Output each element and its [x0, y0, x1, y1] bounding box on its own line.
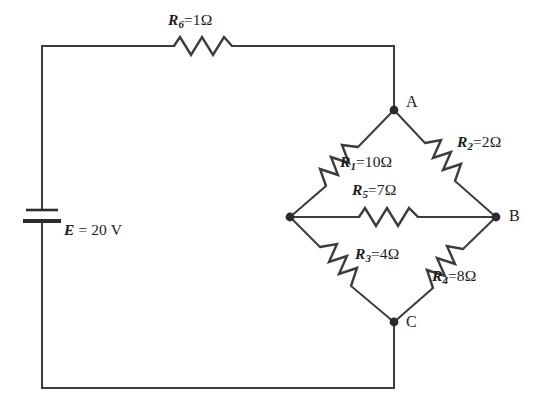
wire-B-to-R4 — [463, 217, 496, 249]
resistor-R6-zigzag — [174, 37, 232, 55]
label-R4-unit: Ω — [465, 267, 477, 284]
node-label-C: C — [406, 314, 417, 330]
node-dot-A — [390, 106, 399, 115]
label-R3-value: 4 — [380, 245, 388, 262]
label-R5-unit: Ω — [385, 181, 397, 198]
resistor-R2-zigzag — [425, 140, 461, 181]
label-R2-eq: = — [473, 133, 482, 150]
node-dot-D — [286, 213, 295, 222]
label-R6: R6=1Ω — [168, 12, 212, 30]
label-R1-unit: Ω — [381, 153, 393, 170]
label-R5: R5=7Ω — [352, 182, 396, 200]
label-R3-unit: Ω — [388, 245, 400, 262]
battery-symbol — [23, 210, 61, 221]
wire-A-to-R2 — [394, 110, 425, 143]
label-R2-value: 2 — [482, 133, 490, 150]
label-R1: R1=10Ω — [340, 154, 392, 172]
circuit-diagram-canvas: R6=1Ω E = 20 V R1=10Ω R2=2Ω R5=7Ω R3=4Ω … — [0, 0, 553, 411]
label-emf-source: E = 20 V — [64, 222, 122, 238]
label-R3: R3=4Ω — [355, 246, 399, 264]
label-R2-unit: Ω — [490, 133, 502, 150]
resistor-R3-zigzag — [320, 244, 357, 286]
wire-A-to-R1 — [358, 110, 394, 147]
label-emf-eq: = — [74, 221, 91, 238]
label-R2-var: R — [457, 133, 467, 150]
label-R1-eq: = — [356, 153, 365, 170]
label-R5-eq: = — [368, 181, 377, 198]
node-label-A: A — [406, 94, 418, 110]
label-R3-eq: = — [371, 245, 380, 262]
wire-R3-to-C — [351, 286, 394, 322]
label-R6-var: R — [168, 11, 178, 28]
circuit-schematic-svg — [0, 0, 553, 411]
label-emf-value: 20 — [91, 221, 107, 238]
node-dot-C — [390, 318, 399, 327]
label-R2: R2=2Ω — [457, 134, 501, 152]
label-R1-var: R — [340, 153, 350, 170]
wire-D-to-R3 — [290, 217, 320, 247]
label-R4: R4=8Ω — [432, 268, 476, 286]
resistor-R5-zigzag — [359, 208, 418, 226]
wire-R2-to-B — [455, 181, 496, 217]
label-R6-unit: Ω — [201, 11, 213, 28]
node-label-B: B — [509, 208, 520, 224]
label-R3-var: R — [355, 245, 365, 262]
label-R6-value: 1 — [193, 11, 201, 28]
label-R1-value: 10 — [365, 153, 381, 170]
label-R5-var: R — [352, 181, 362, 198]
label-R4-var: R — [432, 267, 442, 284]
node-dot-B — [492, 213, 501, 222]
label-R4-eq: = — [448, 267, 457, 284]
label-R4-value: 8 — [457, 267, 465, 284]
label-emf-unit: V — [107, 221, 122, 238]
wire-R1-to-D — [290, 186, 326, 217]
label-R5-value: 7 — [377, 181, 385, 198]
label-emf-var: E — [64, 221, 74, 238]
label-R6-eq: = — [184, 11, 193, 28]
